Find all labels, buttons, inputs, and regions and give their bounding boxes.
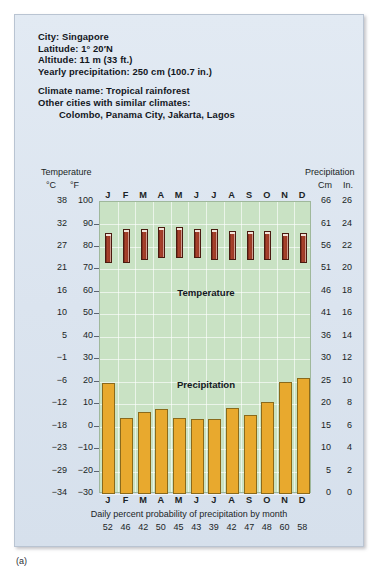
- fahrenheit-tick-label: 20: [65, 375, 93, 385]
- month-label-top: D: [294, 190, 310, 200]
- inch-tick-label: 16: [334, 307, 352, 317]
- fahrenheit-tick-label: −30: [65, 487, 93, 497]
- celsius-tick-label: −34: [37, 487, 67, 497]
- month-label-top: M: [135, 190, 151, 200]
- fahrenheit-tick-label: 70: [65, 262, 93, 272]
- celsius-tick-label: 5: [37, 330, 67, 340]
- inch-tick-label: 22: [334, 240, 352, 250]
- inch-tick-label: 26: [334, 195, 352, 205]
- celsius-tick-label: −12: [37, 397, 67, 407]
- inch-tick-label: 20: [334, 262, 352, 272]
- fahrenheit-tick-label: 0: [65, 420, 93, 430]
- precipitation-bar: [261, 402, 274, 494]
- cm-tick-label: 66: [311, 195, 331, 205]
- fahrenheit-tick-label: −20: [65, 465, 93, 475]
- precipitation-bar: [138, 412, 151, 494]
- plot-area: TemperaturePrecipitation: [99, 201, 311, 493]
- celsius-tick-label: −23: [37, 442, 67, 452]
- celsius-tick-label: 32: [37, 218, 67, 228]
- month-label-top: O: [259, 190, 275, 200]
- fahrenheit-tick-label: 80: [65, 240, 93, 250]
- precipitation-probability-value: 52: [100, 522, 116, 532]
- inch-tick-label: 14: [334, 330, 352, 340]
- inch-tick-label: 4: [334, 442, 352, 452]
- month-label-bottom: N: [277, 495, 293, 505]
- cm-tick-label: 41: [311, 307, 331, 317]
- temperature-range-bar: [158, 227, 165, 258]
- cm-tick-label: 56: [311, 240, 331, 250]
- fahrenheit-tick-label: 10: [65, 397, 93, 407]
- similar-climates-label: Other cities with similar climates:: [38, 97, 338, 109]
- month-label-bottom: D: [294, 495, 310, 505]
- cm-tick-label: 5: [311, 465, 331, 475]
- axis-tick-mark: [94, 448, 99, 449]
- fahrenheit-tick-label: 30: [65, 352, 93, 362]
- temperature-scale-title: Temperature: [41, 167, 92, 177]
- precipitation-bar: [173, 418, 186, 494]
- grid-line-horizontal: [100, 247, 310, 248]
- month-label-top: M: [171, 190, 187, 200]
- precipitation-bar: [120, 418, 133, 494]
- month-label-top: J: [100, 190, 116, 200]
- month-label-bottom: J: [188, 495, 204, 505]
- month-label-bottom: J: [100, 495, 116, 505]
- month-label-bottom: A: [153, 495, 169, 505]
- axis-tick-mark: [94, 403, 99, 404]
- cm-tick-label: 46: [311, 285, 331, 295]
- axis-tick-mark: [94, 358, 99, 359]
- axis-tick-mark: [94, 381, 99, 382]
- temperature-annotation: Temperature: [100, 287, 312, 298]
- celsius-tick-label: −29: [37, 465, 67, 475]
- grid-line-horizontal: [100, 337, 310, 338]
- axis-tick-mark: [94, 336, 99, 337]
- grid-line-horizontal: [100, 359, 310, 360]
- precipitation-probability-value: 42: [224, 522, 240, 532]
- fahrenheit-tick-label: −10: [65, 442, 93, 452]
- inch-tick-label: 6: [334, 420, 352, 430]
- inch-tick-label: 0: [334, 487, 352, 497]
- celsius-unit-label: °C: [46, 180, 56, 190]
- cm-tick-label: 0: [311, 487, 331, 497]
- climate-card: City: Singapore Latitude: 1° 20′N Altitu…: [14, 14, 364, 547]
- temperature-range-bar: [105, 233, 112, 262]
- temperature-range-bar: [247, 231, 254, 260]
- climate-name-line: Climate name: Tropical rainforest: [38, 85, 338, 97]
- axis-tick-mark: [94, 426, 99, 427]
- info-block: City: Singapore Latitude: 1° 20′N Altitu…: [38, 31, 338, 120]
- cm-tick-label: 51: [311, 262, 331, 272]
- inch-tick-label: 10: [334, 375, 352, 385]
- month-label-bottom: M: [135, 495, 151, 505]
- celsius-tick-label: −18: [37, 420, 67, 430]
- celsius-tick-label: 27: [37, 240, 67, 250]
- cm-tick-label: 15: [311, 420, 331, 430]
- fahrenheit-tick-label: 40: [65, 330, 93, 340]
- latitude-line: Latitude: 1° 20′N: [38, 43, 338, 55]
- precipitation-probability-value: 42: [135, 522, 151, 532]
- cm-tick-label: 30: [311, 352, 331, 362]
- precipitation-bar: [155, 409, 168, 494]
- precipitation-bar: [279, 382, 292, 494]
- precipitation-scale-title: Precipitation: [305, 167, 355, 177]
- precipitation-bar: [226, 408, 239, 494]
- grid-line-horizontal: [100, 224, 310, 225]
- cm-tick-label: 36: [311, 330, 331, 340]
- precipitation-probability-value: 58: [294, 522, 310, 532]
- month-label-bottom: F: [118, 495, 134, 505]
- figure-climate-graph: City: Singapore Latitude: 1° 20′N Altitu…: [0, 0, 377, 587]
- precipitation-probability-value: 50: [153, 522, 169, 532]
- cm-tick-label: 10: [311, 442, 331, 452]
- temperature-range-bar: [194, 229, 201, 258]
- celsius-tick-label: 38: [37, 195, 67, 205]
- fahrenheit-tick-label: 100: [65, 195, 93, 205]
- precipitation-bar: [191, 419, 204, 494]
- yearly-precipitation-line: Yearly precipitation: 250 cm (100.7 in.): [38, 66, 338, 78]
- temperature-range-bar: [300, 233, 307, 262]
- precipitation-bar: [208, 419, 221, 494]
- precipitation-probability-value: 47: [241, 522, 257, 532]
- fahrenheit-unit-label: °F: [70, 180, 79, 190]
- month-label-bottom: S: [241, 495, 257, 505]
- grid-line-horizontal: [100, 314, 310, 315]
- precipitation-annotation: Precipitation: [100, 379, 312, 390]
- precipitation-probability-value: 60: [277, 522, 293, 532]
- precipitation-probability-value: 43: [188, 522, 204, 532]
